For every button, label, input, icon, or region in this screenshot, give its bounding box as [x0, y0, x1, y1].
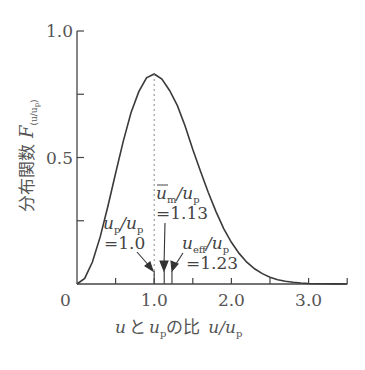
svg-text:=1.0: =1.0 — [104, 233, 145, 253]
y-tick-label: 1.0 — [46, 21, 73, 41]
tick-labels: 01.02.03.00.51.0 — [46, 21, 322, 310]
maxwell-distribution-chart: 01.02.03.00.51.0 up/up =1.0 um/up =1.13 … — [0, 0, 365, 370]
annotation-mean: um/up =1.13 — [156, 183, 208, 223]
svg-text:=1.23: =1.23 — [186, 253, 238, 273]
svg-text:um/up: um/up — [156, 183, 200, 205]
y-axis-title: 分布関数F(u/up) — [16, 99, 41, 212]
x-axis-title: uとupの比u/up — [115, 317, 242, 339]
x-tick-label: 1.0 — [141, 290, 168, 310]
svg-text:uとupの比u/up: uとupの比u/up — [115, 317, 242, 339]
x-tick-label: 0 — [60, 290, 71, 310]
svg-text:up/up: up/up — [103, 213, 143, 235]
x-tick-label: 2.0 — [218, 290, 245, 310]
svg-text:=1.13: =1.13 — [156, 203, 208, 223]
svg-text:分布関数F(u/up): 分布関数F(u/up) — [16, 99, 41, 212]
x-tick-label: 3.0 — [295, 290, 322, 310]
svg-text:ueff/up: ueff/up — [182, 233, 229, 255]
annotation-markers — [154, 271, 172, 284]
y-tick-label: 0.5 — [46, 148, 73, 168]
annotation-peak: up/up =1.0 — [103, 213, 145, 253]
